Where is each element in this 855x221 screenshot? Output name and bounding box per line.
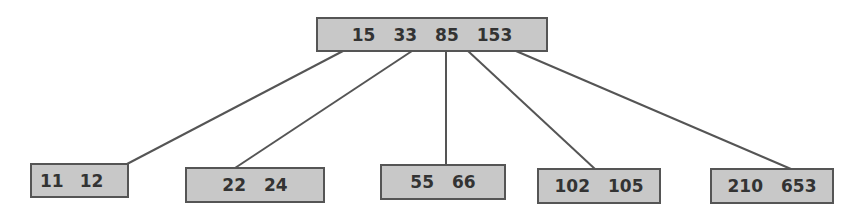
leaf-node-4: 102 105 xyxy=(537,168,661,204)
b-tree-diagram: 15 33 85 153 11 12 22 24 55 66 102 105 2… xyxy=(0,0,855,221)
leaf-key: 55 xyxy=(410,172,434,192)
root-node: 15 33 85 153 xyxy=(316,17,548,52)
leaf-key: 102 xyxy=(555,176,591,196)
leaf-key: 105 xyxy=(608,176,644,196)
root-key: 85 xyxy=(435,25,459,45)
edge-root-leaf-4 xyxy=(468,51,595,169)
leaf-key: 11 xyxy=(40,171,64,191)
edge-root-leaf-2 xyxy=(235,51,412,168)
leaf-key: 22 xyxy=(222,175,246,195)
root-key: 153 xyxy=(477,25,513,45)
leaf-key: 12 xyxy=(80,171,104,191)
leaf-key: 24 xyxy=(264,175,288,195)
leaf-node-5: 210 653 xyxy=(710,168,834,204)
edge-root-leaf-5 xyxy=(516,51,791,169)
leaf-key: 210 xyxy=(728,176,764,196)
leaf-key: 653 xyxy=(781,176,817,196)
leaf-node-2: 22 24 xyxy=(185,167,325,203)
edge-root-leaf-1 xyxy=(127,51,343,164)
root-key: 15 xyxy=(352,25,376,45)
root-key: 33 xyxy=(393,25,417,45)
leaf-node-1: 11 12 xyxy=(30,163,129,198)
leaf-key: 66 xyxy=(452,172,476,192)
leaf-node-3: 55 66 xyxy=(380,164,506,200)
